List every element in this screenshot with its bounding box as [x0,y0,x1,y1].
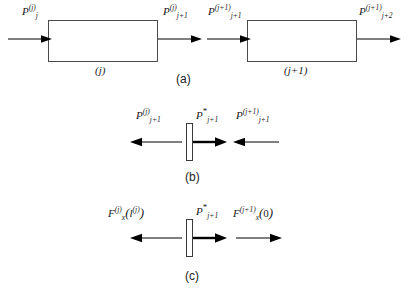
segment-caption-j-plus-1: (j+1) [284,64,307,76]
label-outlet-left-sup: (j) [170,3,177,12]
label-b-center-sub: j+1 [207,115,218,124]
label-c-right-sup: (j+1) [240,205,256,214]
label-inlet-right-sup: (j+1) [215,3,231,12]
panel-c: F(j)x(l(j)) P*j+1 F(j+1)x(0) (c) [0,196,408,305]
arrow-right-pressure-b [233,136,279,148]
label-outlet-right-sub: j+2 [382,11,393,20]
arrow-center-pressure-c [193,232,227,244]
paren-close-c-right: ) [269,205,273,220]
panel-letter-c: (c) [185,269,199,283]
label-pressure-center-b: P*j+1 [196,110,218,121]
label-outlet-pressure-left: P(j)j+1 [163,6,188,17]
panel-letter-a-text: (a) [176,72,191,86]
label-outlet-pressure-right: P(j+1)j+2 [359,6,393,17]
inlet-arrow-left [8,33,52,45]
segment-caption-j-plus-1-text: (j+1) [284,64,307,76]
panel-letter-b: (b) [185,170,200,184]
panel-b: P(j)j+1 P*j+1 P(j+1)j+1 (b) [0,100,408,195]
arrow-right-force-c [236,232,282,244]
label-b-right-base: P [236,109,243,121]
label-pressure-right-b: P(j+1)j+1 [236,110,270,121]
label-c-right-base: F [233,207,240,219]
label-inlet-left-sup: (j) [29,3,36,12]
label-b-right-sub: j+1 [259,115,270,124]
label-c-left-arg-sup: (j) [133,205,140,214]
label-b-left-sup: (j) [143,107,150,116]
label-outlet-right-sup: (j+1) [366,3,382,12]
panel-a: P(j)j P(j)j+1 (j) P(j+1)j+1 [0,0,408,100]
panel-letter-c-text: (c) [185,269,199,283]
label-c-left-sup: (j) [115,205,122,214]
label-inlet-pressure-left: P(j)j [22,6,38,17]
label-force-right-c: F(j+1)x(0) [233,206,273,219]
label-inlet-right-base: P [208,5,215,17]
outlet-arrow-left [158,33,202,45]
label-inlet-pressure-right: P(j+1)j+1 [208,6,242,17]
figure-canvas: P(j)j P(j)j+1 (j) P(j+1)j+1 [0,0,408,305]
interface-plate-c [186,219,193,257]
label-outlet-right-base: P [359,5,366,17]
panel-letter-a: (a) [176,72,191,86]
label-inlet-left-sub: j [36,11,38,20]
label-b-right-sup: (j+1) [243,107,259,116]
label-force-left-c: F(j)x(l(j)) [108,206,144,219]
segment-box-j-plus-1 [247,20,357,62]
label-c-left-base: F [108,207,115,219]
arrow-center-pressure-b [193,136,227,148]
label-c-center-sub: j+1 [207,211,218,220]
segment-caption-j-text: (j) [95,64,105,76]
segment-box-j [48,20,158,62]
label-b-left-sub: j+1 [150,115,161,124]
label-inlet-right-sub: j+1 [231,11,242,20]
label-outlet-left-base: P [163,5,170,17]
label-pressure-center-c: P*j+1 [196,206,218,217]
arrow-left-pressure-b [130,136,182,148]
paren-close-c-left: ) [140,205,144,220]
arrow-left-force-c [130,232,182,244]
label-pressure-left-b: P(j)j+1 [136,110,161,121]
inlet-arrow-right [207,33,251,45]
label-inlet-left-base: P [22,5,29,17]
label-outlet-left-sub: j+1 [177,11,188,20]
label-b-left-base: P [136,109,143,121]
interface-plate-b [186,123,193,161]
label-c-center-base: P [196,205,203,217]
segment-caption-j: (j) [95,64,105,76]
outlet-arrow-right [357,33,401,45]
label-b-center-base: P [196,109,203,121]
panel-letter-b-text: (b) [185,170,200,184]
